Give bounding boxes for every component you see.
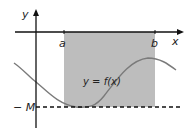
y-axis-arrow-icon: [33, 9, 39, 16]
diagram-canvas: y x a b y = f(x) − M: [0, 0, 194, 139]
x-axis-label: x: [171, 35, 179, 48]
function-label: y = f(x): [82, 76, 121, 87]
shaded-region: [64, 32, 155, 107]
point-a-label: a: [59, 37, 66, 50]
lower-bound-label: − M: [13, 101, 36, 114]
point-b-label: b: [151, 37, 158, 50]
y-axis-label: y: [21, 8, 29, 21]
